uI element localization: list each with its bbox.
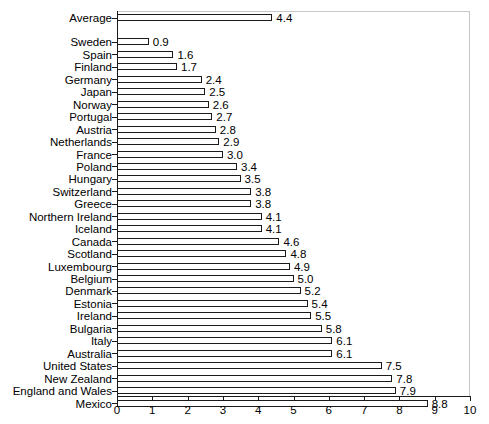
bar-value-label: 4.4: [276, 11, 292, 25]
bar: [117, 101, 209, 108]
bar: [117, 375, 392, 382]
bar: [117, 238, 279, 245]
bar: [117, 51, 173, 58]
x-axis-tick-label: 9: [420, 403, 450, 417]
bar: [117, 113, 212, 120]
bar: [117, 275, 294, 282]
x-axis-tick-label: 6: [314, 403, 344, 417]
bar: [117, 225, 262, 232]
bar: [117, 325, 322, 332]
x-axis-tick-label: 5: [279, 403, 309, 417]
bar: [117, 337, 332, 344]
x-axis-tick-label: 10: [455, 403, 485, 417]
bar: [117, 76, 202, 83]
x-axis-tick: [364, 396, 365, 401]
bar: [117, 300, 308, 307]
x-axis-tick-label: 7: [349, 403, 379, 417]
bar: [117, 163, 237, 170]
x-axis-tick: [258, 396, 259, 401]
x-axis-tick: [399, 396, 400, 401]
x-axis-tick: [329, 396, 330, 401]
bar: [117, 151, 223, 158]
x-axis-tick: [117, 396, 118, 401]
bar: [117, 138, 219, 145]
bar: [117, 213, 262, 220]
x-axis-tick-label: 2: [173, 403, 203, 417]
bar: [117, 250, 286, 257]
bar: [117, 175, 241, 182]
bar: [117, 14, 272, 21]
bar: [117, 350, 332, 357]
bar: [117, 88, 205, 95]
x-axis-tick-label: 0: [102, 403, 132, 417]
x-axis-tick-label: 8: [384, 403, 414, 417]
x-axis-tick-label: 1: [137, 403, 167, 417]
bar: [117, 126, 216, 133]
x-axis-tick-label: 4: [243, 403, 273, 417]
bar: [117, 188, 251, 195]
x-axis-tick: [188, 396, 189, 401]
bar: [117, 63, 177, 70]
bar-chart: Average4.4Sweden0.9Spain1.6Finland1.7Ger…: [0, 0, 489, 424]
bar: [117, 387, 396, 394]
x-axis-tick: [435, 396, 436, 401]
category-label: Average: [2, 11, 112, 25]
bar: [117, 38, 149, 45]
x-axis-tick: [470, 396, 471, 401]
x-axis-tick-label: 3: [208, 403, 238, 417]
table-row: Average4.4: [0, 11, 489, 25]
x-axis-tick: [223, 396, 224, 401]
category-label: Mexico: [2, 397, 112, 411]
bar: [117, 263, 290, 270]
x-axis-tick: [152, 396, 153, 401]
x-axis-tick: [294, 396, 295, 401]
bar: [117, 287, 301, 294]
bar: [117, 362, 382, 369]
bar: [117, 200, 251, 207]
bar: [117, 312, 311, 319]
